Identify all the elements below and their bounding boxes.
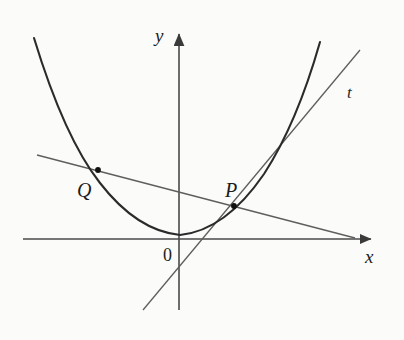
tangent-line-label: t bbox=[347, 83, 353, 102]
point-q-label: Q bbox=[77, 179, 92, 201]
x-axis-label: x bbox=[364, 246, 374, 267]
y-axis-label: y bbox=[153, 25, 164, 46]
point-q-marker bbox=[95, 167, 101, 173]
scan-artifact-line-1 bbox=[58, 290, 64, 307]
parabola-curve bbox=[34, 38, 320, 235]
point-p-marker bbox=[231, 203, 237, 209]
tangent-line-t bbox=[143, 50, 360, 310]
parabola-tangent-diagram: y x 0 P Q t bbox=[0, 0, 404, 340]
point-p-label: P bbox=[224, 179, 237, 201]
scan-artifact-line-2 bbox=[52, 313, 58, 330]
origin-label: 0 bbox=[163, 245, 172, 265]
